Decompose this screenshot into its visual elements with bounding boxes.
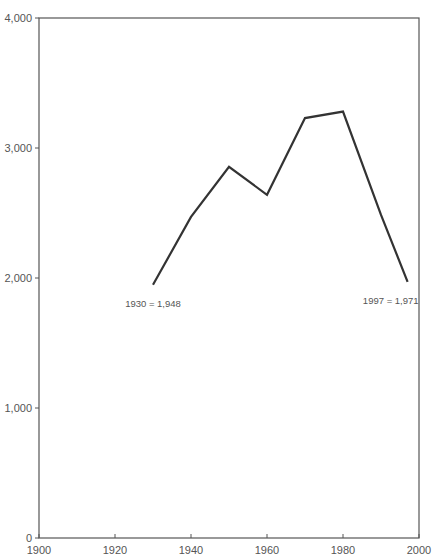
- y-tick-label: 3,000: [4, 142, 32, 154]
- annotation-label: 1930 = 1,948: [125, 298, 181, 309]
- x-tick-label: 1940: [179, 544, 203, 556]
- x-axis: 190019201940196019802000: [27, 534, 431, 556]
- annotation-label: 1997 = 1,971: [363, 295, 419, 306]
- y-tick-label: 1,000: [4, 402, 32, 414]
- y-tick-label: 2,000: [4, 272, 32, 284]
- plot-border: [39, 18, 419, 538]
- x-tick-label: 1920: [103, 544, 127, 556]
- x-tick-label: 2000: [407, 544, 431, 556]
- plot-frame: [39, 18, 419, 538]
- y-tick-label: 0: [26, 532, 32, 544]
- x-tick-label: 1960: [255, 544, 279, 556]
- line-chart: 01,0002,0003,0004,000 190019201940196019…: [0, 0, 434, 558]
- x-tick-label: 1980: [331, 544, 355, 556]
- data-series: [153, 112, 408, 285]
- annotations: 1930 = 1,9481997 = 1,971: [125, 295, 418, 309]
- y-tick-label: 4,000: [4, 12, 32, 24]
- x-tick-label: 1900: [27, 544, 51, 556]
- y-axis: 01,0002,0003,0004,000: [4, 12, 39, 544]
- series-line: [153, 112, 408, 285]
